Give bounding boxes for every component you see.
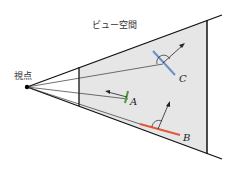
view-frustum-diagram: ビュー空間 視点 A B C: [0, 0, 233, 170]
object-c-label: C: [179, 73, 187, 84]
eye-label: 視点: [14, 70, 32, 81]
view-space-title: ビュー空間: [92, 19, 137, 30]
eye-point: [25, 85, 29, 89]
object-b-label: B: [182, 132, 190, 143]
object-a-label: A: [129, 96, 137, 107]
